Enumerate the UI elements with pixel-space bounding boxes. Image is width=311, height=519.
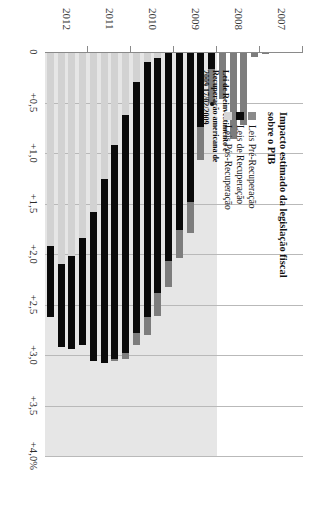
plot-area: Lei de Reinvestimento e Recuperação amer…	[45, 52, 303, 456]
chart-screenshot: 0+0,5+1,0+1,5+2,0+2,5+3,0+3,5+4,0% Lei d…	[0, 0, 311, 519]
bar-segment-post	[101, 52, 108, 179]
bar-segment-pre	[187, 202, 194, 232]
year-label: 2007	[277, 8, 289, 30]
bar-row	[144, 52, 151, 456]
year-tick	[302, 46, 303, 52]
bar-segment-rec	[208, 52, 215, 69]
legend-item: Leis Pós-Recuperação	[223, 112, 233, 288]
bar-segment-pre	[144, 317, 151, 335]
year-tick	[173, 46, 174, 52]
bar-segment-pre	[111, 359, 118, 361]
bar-row	[58, 52, 65, 456]
bar-segment-post	[47, 52, 54, 246]
year-tick	[87, 46, 88, 52]
bar-segment-rec	[101, 179, 108, 363]
bar-segment-post	[144, 52, 151, 62]
legend-swatch-pre	[248, 112, 256, 120]
value-tick-label: +4,0%	[28, 442, 39, 470]
bar-segment-rec	[187, 52, 194, 202]
legend-item: Leis Pré-Recuperação	[247, 112, 257, 288]
bar-row	[133, 52, 140, 456]
value-tick-label: +0,5	[28, 93, 39, 112]
value-tick-label: +3,5	[28, 396, 39, 415]
bar-row	[68, 52, 75, 456]
bar-segment-post	[68, 52, 75, 256]
bar-row	[294, 52, 301, 456]
legend-item: Leis de Recuperação	[235, 112, 245, 288]
bar-segment-post	[111, 52, 118, 145]
year-label: 2009	[191, 8, 203, 30]
bar-row	[122, 52, 129, 456]
legend-items: Leis Pré-RecuperaçãoLeis de RecuperaçãoL…	[223, 112, 257, 288]
year-label: 2010	[148, 8, 160, 30]
bar-segment-rec	[79, 238, 86, 345]
figure: 0+0,5+1,0+1,5+2,0+2,5+3,0+3,5+4,0% Lei d…	[0, 0, 311, 519]
gridline	[45, 456, 303, 457]
bar-segment-rec	[68, 256, 75, 349]
annotation-marker-dot	[210, 102, 214, 106]
bar-row	[101, 52, 108, 456]
bar-segment-rec	[111, 145, 118, 359]
annotation-date: 17/02/2009	[201, 88, 210, 124]
bar-segment-post	[133, 52, 140, 82]
rotated-figure: 0+0,5+1,0+1,5+2,0+2,5+3,0+3,5+4,0% Lei d…	[0, 0, 311, 519]
year-label: 2008	[234, 8, 246, 30]
bar-segment-post	[58, 52, 65, 264]
year-tick	[259, 46, 260, 52]
value-tick-label: +2,0	[28, 244, 39, 263]
bar-segment-pre	[122, 353, 129, 359]
year-tick	[130, 46, 131, 52]
value-tick-label: +3,0	[28, 345, 39, 364]
year-label: 2012	[62, 8, 74, 30]
bar-row	[47, 52, 54, 456]
year-label: 2011	[105, 8, 117, 30]
bar-segment-post	[122, 52, 129, 115]
bar-segment-post	[79, 52, 86, 238]
legend-item-label: Leis Pós-Recuperação	[223, 125, 233, 210]
legend-swatch-post	[224, 112, 232, 120]
value-tick-label: +1,0	[28, 143, 39, 162]
bar-segment-rec	[176, 52, 183, 230]
category-axis-line	[45, 52, 303, 53]
bar-segment-rec	[47, 246, 54, 317]
bar-segment-rec	[90, 212, 97, 361]
bar-segment-rec	[58, 264, 65, 347]
legend: Impacto estimado da legislação fiscal so…	[221, 112, 289, 288]
bar-row	[176, 52, 183, 456]
year-tick	[216, 46, 217, 52]
bar-segment-pre	[165, 261, 172, 287]
bar-segment-rec	[122, 115, 129, 353]
bar-segment-post	[90, 52, 97, 212]
bar-row	[90, 52, 97, 456]
bar-segment-rec	[165, 52, 172, 261]
value-tick-label: +1,5	[28, 194, 39, 213]
bar-segment-rec	[133, 82, 140, 332]
legend-item-label: Leis de Recuperação	[235, 125, 245, 204]
bar-segment-rec	[154, 58, 161, 293]
value-tick-label: 0	[28, 49, 39, 54]
bar-segment-rec	[144, 62, 151, 317]
bar-row	[187, 52, 194, 456]
bar-segment-pre	[176, 230, 183, 258]
bar-row	[79, 52, 86, 456]
bar-row	[165, 52, 172, 456]
value-tick-label: +2,5	[28, 295, 39, 314]
bar-segment-pre	[154, 293, 161, 315]
bar-segment-pre	[133, 333, 140, 345]
legend-item-label: Leis Pré-Recuperação	[247, 125, 257, 209]
bar-row	[111, 52, 118, 456]
legend-swatch-rec	[236, 112, 244, 120]
bar-row	[154, 52, 161, 456]
chart-title: Impacto estimado da legislação fiscal so…	[264, 112, 289, 288]
